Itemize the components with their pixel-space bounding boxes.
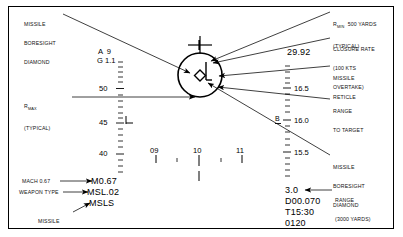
callout-rmax-typical: RMAX (TYPICAL) <box>24 91 50 144</box>
leader-rmin <box>211 12 330 61</box>
hud-diagram-page: MISSILE BORESIGHT DIAMOND RMAX (TYPICAL)… <box>0 0 403 237</box>
leader-missile-reticle <box>219 66 330 76</box>
leader-boresight-left <box>63 14 190 73</box>
heading-label-10: 10 <box>193 146 201 155</box>
rmax-subscript: MAX <box>28 106 37 111</box>
hud-course-value: 0120 <box>285 218 306 229</box>
hud-mach-value: M0.67 <box>91 176 117 187</box>
missile-reticle-circle <box>178 53 222 97</box>
hud-weapon-value: MSL.02 <box>87 187 119 198</box>
hud-range-value: 3.0 <box>285 185 298 196</box>
airspeed-label-45: 45 <box>99 118 107 127</box>
callout-mach: MACH 0.67 <box>22 178 50 184</box>
altitude-label-160: 16.0 <box>294 116 309 125</box>
hud-aoa-readout: A 9 <box>98 47 111 56</box>
aiming-cross-icon <box>188 36 212 54</box>
hud-g-load-readout: G 1.1 <box>97 56 116 65</box>
missile-boresight-diamond-shape <box>195 70 206 81</box>
bearing-marker: B <box>275 114 280 123</box>
leader-closure-rate <box>213 38 330 63</box>
hud-time-value: T15:30 <box>285 207 314 218</box>
callout-range-to-target: RANGE TO TARGET <box>333 96 363 146</box>
leader-missile-mode <box>73 203 90 212</box>
closure-rate-caret <box>206 62 212 80</box>
airspeed-tape <box>116 62 133 172</box>
hud-distance-value: D00.070 <box>285 196 320 207</box>
callout-missile-mode: MISSILE MODE <box>38 206 60 237</box>
airspeed-minor-ticks <box>118 62 123 172</box>
leader-range-to-target <box>218 87 330 99</box>
hud-mode-value: MSLS <box>89 198 114 209</box>
airspeed-label-40: 40 <box>99 149 107 158</box>
altitude-label-165: 16.5 <box>294 84 309 93</box>
heading-tape <box>156 155 242 181</box>
rmin-rest: 500 YARDS <box>345 21 377 27</box>
altitude-label-155: 15.5 <box>294 148 309 157</box>
altitude-minor-ticks <box>285 66 290 176</box>
missile-reticle-group <box>178 36 222 97</box>
heading-label-09: 09 <box>150 146 158 155</box>
callout-range-yards: RANGE (3000 YARDS) <box>335 185 371 235</box>
rmin-subscript: MIN <box>337 24 345 29</box>
airspeed-bug <box>126 116 133 124</box>
hud-baro-altimeter: 29.92 <box>287 47 311 58</box>
airspeed-label-50: 50 <box>99 84 107 93</box>
leader-boresight-right <box>208 83 330 155</box>
heading-label-11: 11 <box>236 146 244 155</box>
callout-missile-boresight-diamond-top: MISSILE BORESIGHT DIAMOND <box>24 9 56 77</box>
callout-weapon-type: WEAPON TYPE <box>19 189 59 195</box>
